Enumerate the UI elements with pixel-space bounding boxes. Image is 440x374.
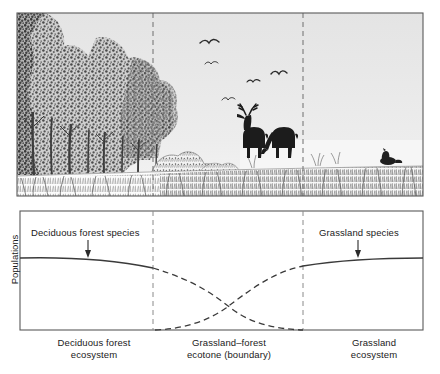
landscape-illustration-panel xyxy=(17,13,423,196)
zone-label-line2: ecotone (boundary) xyxy=(187,349,271,360)
annotation-deciduous-forest-species: Deciduous forest species xyxy=(31,227,140,238)
zone-label-deciduous-ecosystem: Deciduous forest ecosystem xyxy=(33,337,155,360)
zone-label-line1: Grassland–forest xyxy=(192,337,266,348)
zone-label-grassland-ecosystem: Grassland ecosystem xyxy=(331,337,417,360)
figure-canvas xyxy=(0,0,440,374)
zone-label-line2: ecosystem xyxy=(71,349,117,360)
ecotone-figure: Populations Deciduous forest species Gra… xyxy=(0,0,440,374)
zone-label-line1: Grassland xyxy=(352,337,396,348)
y-axis-label: Populations xyxy=(9,224,20,296)
zone-label-line2: ecosystem xyxy=(351,349,397,360)
annotation-grassland-species: Grassland species xyxy=(319,227,399,238)
zone-label-line1: Deciduous forest xyxy=(58,337,131,348)
zone-label-ecotone: Grassland–forest ecotone (boundary) xyxy=(169,337,289,360)
